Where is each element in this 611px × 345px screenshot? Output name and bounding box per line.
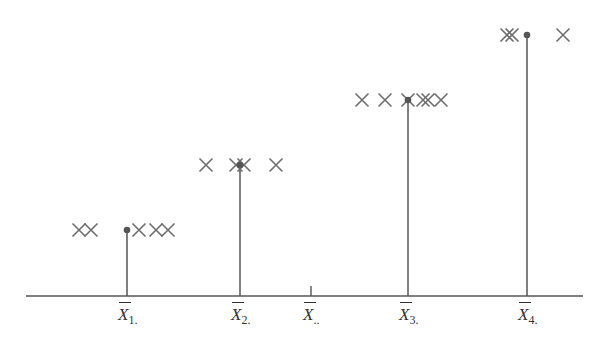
group-means-diagram [0, 0, 611, 345]
label-grand-mean: X.. [303, 305, 319, 328]
observation-cross-icon [557, 29, 570, 42]
observation-cross-icon [162, 224, 175, 237]
observation-cross-icon [133, 224, 146, 237]
group-3-mean-dot [405, 97, 412, 104]
label-group-3-mean: X3. [399, 305, 418, 328]
observation-cross-icon [379, 94, 392, 107]
group-4-mean-dot [524, 32, 531, 39]
observation-cross-icon [270, 159, 283, 172]
group-2-mean-dot [237, 162, 244, 169]
label-group-1-mean: X1. [118, 305, 137, 328]
observation-cross-icon [85, 224, 98, 237]
group-1-mean-dot [124, 227, 131, 234]
observation-cross-icon [435, 94, 448, 107]
observation-cross-icon [356, 94, 369, 107]
observation-cross-icon [150, 224, 163, 237]
observation-cross-icon [73, 224, 86, 237]
label-group-4-mean: X4. [518, 305, 537, 328]
label-group-2-mean: X2. [231, 305, 250, 328]
observation-cross-icon [200, 159, 213, 172]
